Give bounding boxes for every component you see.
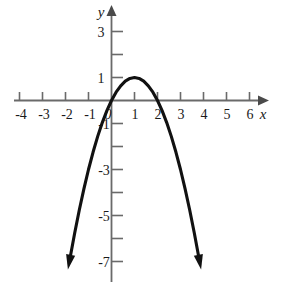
x-tick-label--2: -2 — [61, 107, 73, 122]
y-tick-label-1: 1 — [98, 71, 105, 86]
x-tick-label--4: -4 — [15, 107, 27, 122]
y-tick-label--5: -5 — [98, 209, 110, 224]
axes-group — [14, 5, 269, 282]
y-tick-label-3: 3 — [98, 25, 105, 40]
x-tick-label-3: 3 — [178, 107, 185, 122]
x-tick-labels: -4 -3 -2 -1 0 1 2 3 4 5 6 — [15, 107, 253, 122]
parabola-curve — [69, 78, 199, 262]
y-tick-label--7: -7 — [98, 255, 110, 270]
x-axis-label: x — [259, 106, 267, 122]
x-tick-label-5: 5 — [224, 107, 231, 122]
curve-left-arrowhead — [66, 254, 75, 270]
y-axis-ticks — [111, 32, 123, 262]
x-tick-label-1: 1 — [132, 107, 139, 122]
x-tick-label-6: 6 — [247, 107, 254, 122]
y-tick-label--3: -3 — [98, 163, 110, 178]
y-axis-arrowhead — [107, 5, 117, 16]
x-tick-label-4: 4 — [201, 107, 208, 122]
x-tick-label--3: -3 — [38, 107, 50, 122]
y-axis-label: y — [96, 4, 105, 20]
y-tick-labels: 3 1 -1 -3 -5 -7 — [98, 25, 110, 270]
coordinate-plane-svg: -4 -3 -2 -1 0 1 2 3 4 5 6 3 1 -1 -3 -5 -… — [0, 0, 281, 286]
parabola-graph-figure: -4 -3 -2 -1 0 1 2 3 4 5 6 3 1 -1 -3 -5 -… — [0, 0, 281, 286]
x-axis-arrowhead — [258, 96, 269, 106]
x-tick-label--1: -1 — [84, 107, 96, 122]
curve-right-arrowhead — [194, 254, 203, 270]
